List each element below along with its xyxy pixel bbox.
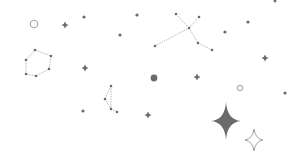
constellation-small-kite-line [105, 99, 111, 109]
constellation-small-kite-line [105, 86, 111, 99]
plus-star-icon [145, 112, 152, 119]
constellation-star-icon [197, 42, 200, 45]
star-dot-icon [135, 13, 138, 16]
plus-star-icon [262, 55, 269, 62]
constellation-star-icon [198, 16, 201, 19]
constellation-star-icon [110, 85, 113, 88]
plus-star-icon [62, 22, 69, 29]
constellation-x-shape-line [176, 14, 189, 28]
constellation-x-shape-line [189, 28, 198, 43]
constellation-star-icon [110, 108, 113, 111]
starfield-illustration [0, 0, 287, 157]
constellation-star-icon [175, 13, 178, 16]
plus-star-icon [82, 65, 89, 72]
constellation-star-icon [25, 73, 28, 76]
constellation-star-icon [188, 27, 191, 30]
hollow-circle-icon [237, 85, 243, 91]
star-dot-icon [223, 30, 226, 33]
outline-sparkle-icon [245, 129, 263, 151]
star-dot-icon [246, 20, 249, 23]
star-dot-icon [274, 0, 277, 2]
constellation-star-icon [34, 49, 37, 52]
constellation-polygon-lines [26, 50, 51, 76]
constellation-star-icon [116, 111, 119, 114]
star-dot-icon [151, 75, 158, 82]
constellation-x-shape-line [189, 17, 199, 28]
constellation-x-shape-line [155, 28, 189, 46]
constellation-star-icon [50, 55, 53, 58]
hollow-circle-icon [30, 20, 38, 28]
constellation-star-icon [48, 68, 51, 71]
constellation-star-icon [211, 49, 214, 52]
star-dot-icon [81, 109, 84, 112]
star-dot-icon [118, 33, 121, 36]
constellation-star-icon [25, 59, 28, 62]
constellation-star-icon [35, 75, 38, 78]
starfield-canvas [0, 0, 287, 157]
constellation-x-shape-line [198, 43, 212, 50]
star-dot-icon [283, 91, 286, 94]
constellation-star-icon [154, 45, 157, 48]
star-dot-icon [82, 15, 85, 18]
plus-star-icon [194, 74, 201, 81]
large-sparkle-icon [211, 102, 241, 140]
constellation-star-icon [104, 98, 107, 101]
